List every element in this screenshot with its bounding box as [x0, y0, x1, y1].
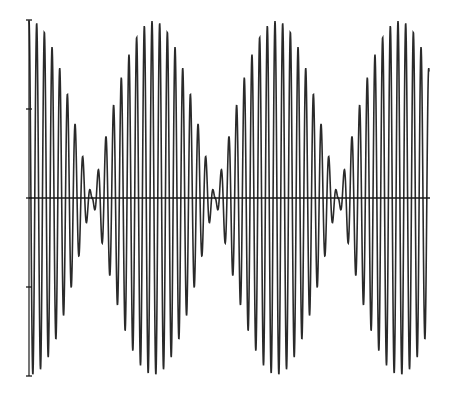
- plot-area: [26, 20, 430, 376]
- beat-waveform-chart: [0, 0, 450, 402]
